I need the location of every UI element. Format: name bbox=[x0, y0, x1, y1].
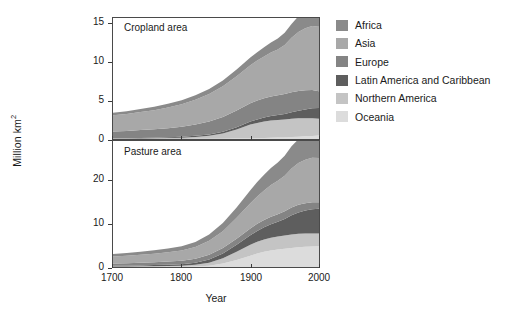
pasture-y-ticklabel-20: 20 bbox=[68, 173, 104, 184]
y-axis-label: Million km2 bbox=[9, 81, 23, 201]
cropland-y-ticklabel-10: 10 bbox=[68, 55, 104, 66]
legend-swatch-icon bbox=[336, 111, 348, 122]
pasture-x-ticklabel-1900: 1900 bbox=[226, 272, 276, 283]
pasture-y-ticklabel-0: 0 bbox=[68, 261, 104, 272]
legend-label: Latin America and Caribbean bbox=[355, 74, 490, 86]
legend-swatch-icon bbox=[336, 38, 348, 49]
panel-cropland-area bbox=[112, 17, 320, 140]
panel-pasture-area bbox=[112, 140, 320, 268]
cropland-y-tick-10 bbox=[108, 62, 112, 63]
legend-swatch-icon bbox=[336, 56, 348, 67]
legend-item: Africa bbox=[336, 16, 490, 34]
pasture-x-tick-1800 bbox=[181, 264, 182, 268]
pasture-x-ticklabel-2000: 2000 bbox=[294, 272, 344, 283]
cropland-area-plot bbox=[113, 18, 319, 139]
legend-swatch-icon bbox=[336, 75, 348, 86]
pasture-y-tick-10 bbox=[108, 224, 112, 225]
legend-item: Oceania bbox=[336, 107, 490, 125]
pasture-x-ticklabel-1700: 1700 bbox=[87, 272, 137, 283]
cropland-x-tick-1800 bbox=[181, 136, 182, 140]
pasture-x-tick-1900 bbox=[251, 264, 252, 268]
cropland-y-tick-0 bbox=[108, 140, 112, 141]
legend-label: Oceania bbox=[355, 111, 394, 123]
cropland-y-tick-5 bbox=[108, 101, 112, 102]
cropland-y-ticklabel-5: 5 bbox=[68, 94, 104, 105]
pasture-y-tick-20 bbox=[108, 180, 112, 181]
legend: AfricaAsiaEuropeLatin America and Caribb… bbox=[336, 16, 490, 126]
legend-swatch-icon bbox=[336, 93, 348, 104]
panel-title-cropland: Cropland area bbox=[124, 22, 187, 33]
pasture-y-tick-0 bbox=[108, 268, 112, 269]
panel-title-pasture: Pasture area bbox=[124, 146, 181, 157]
cropland-x-tick-2000 bbox=[319, 136, 320, 140]
legend-item: Europe bbox=[336, 53, 490, 71]
legend-swatch-icon bbox=[336, 20, 348, 31]
legend-label: Europe bbox=[355, 56, 389, 68]
legend-label: Asia bbox=[355, 37, 375, 49]
legend-label: Northern America bbox=[355, 92, 437, 104]
y-axis-label-text: Million km bbox=[11, 119, 23, 167]
x-axis-label: Year bbox=[112, 292, 320, 304]
cropland-y-ticklabel-0: 0 bbox=[68, 133, 104, 144]
pasture-x-ticklabel-1800: 1800 bbox=[156, 272, 206, 283]
pasture-area-plot bbox=[113, 141, 319, 267]
figure-stacked-area-chart: Million km2 Cropland area Pasture area 0… bbox=[0, 0, 509, 314]
cropland-x-tick-1700 bbox=[112, 136, 113, 140]
legend-item: Latin America and Caribbean bbox=[336, 71, 490, 89]
pasture-x-tick-1700 bbox=[112, 264, 113, 268]
pasture-y-ticklabel-10: 10 bbox=[68, 217, 104, 228]
legend-label: Africa bbox=[355, 19, 382, 31]
cropland-y-ticklabel-15: 15 bbox=[68, 16, 104, 27]
cropland-y-tick-15 bbox=[108, 23, 112, 24]
cropland-x-tick-1900 bbox=[251, 136, 252, 140]
y-axis-label-exponent: 2 bbox=[9, 115, 18, 119]
pasture-x-tick-2000 bbox=[319, 264, 320, 268]
legend-item: Northern America bbox=[336, 89, 490, 107]
legend-item: Asia bbox=[336, 34, 490, 52]
